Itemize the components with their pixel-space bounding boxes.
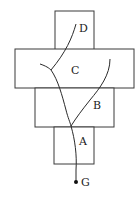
label-c: C xyxy=(71,64,79,77)
label-b: B xyxy=(93,99,101,112)
label-a: A xyxy=(78,135,88,148)
region-a-box xyxy=(54,127,94,164)
label-g: G xyxy=(81,176,90,189)
point-g-dot xyxy=(74,180,78,184)
region-d-box xyxy=(55,11,94,50)
label-d: D xyxy=(79,22,88,35)
nested-regions-diagram: D C B A G xyxy=(0,0,140,198)
